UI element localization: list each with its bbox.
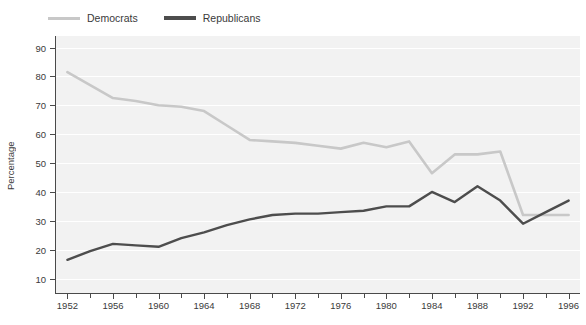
legend-item-republicans[interactable]: Republicans	[164, 12, 261, 24]
y-tick-mark	[50, 250, 55, 251]
legend-line-swatch-democrats	[48, 17, 80, 20]
x-tick-label: 1960	[148, 300, 169, 311]
y-tick-label: 20	[24, 244, 46, 255]
y-tick-label: 30	[24, 215, 46, 226]
y-tick-label: 10	[24, 273, 46, 284]
y-tick-mark	[50, 105, 55, 106]
legend-label-democrats: Democrats	[87, 12, 138, 24]
chart-legend: Democrats Republicans	[48, 9, 261, 27]
x-tick-label: 1964	[194, 300, 215, 311]
y-tick-mark	[50, 279, 55, 280]
y-tick-label: 70	[24, 100, 46, 111]
y-tick-label: 50	[24, 158, 46, 169]
y-tick-label: 90	[24, 42, 46, 53]
series-line-democrats	[67, 72, 568, 215]
y-tick-mark	[50, 134, 55, 135]
y-tick-mark	[50, 163, 55, 164]
legend-label-republicans: Republicans	[203, 12, 261, 24]
plot-area	[56, 36, 580, 293]
x-tick-label: 1980	[376, 300, 397, 311]
y-tick-mark	[50, 221, 55, 222]
y-tick-label: 60	[24, 129, 46, 140]
x-tick-label: 1972	[285, 300, 306, 311]
y-tick-label: 40	[24, 186, 46, 197]
x-tick-label: 1988	[467, 300, 488, 311]
y-axis-tick-labels: 102030405060708090	[22, 0, 46, 325]
x-axis-tick-labels: 1952195619601964196819721976198019841988…	[0, 296, 586, 318]
x-tick-label: 1996	[558, 300, 579, 311]
x-tick-label: 1952	[57, 300, 78, 311]
legend-line-swatch-republicans	[164, 16, 196, 20]
y-tick-label: 80	[24, 71, 46, 82]
x-tick-label: 1956	[102, 300, 123, 311]
y-tick-mark	[50, 48, 55, 49]
series-line-republicans	[67, 186, 568, 260]
y-tick-mark	[50, 192, 55, 193]
y-tick-mark	[50, 76, 55, 77]
y-axis-title: Percentage	[2, 120, 18, 212]
x-tick-label: 1968	[239, 300, 260, 311]
chart-container: Democrats Republicans Percentage 1020304…	[0, 0, 586, 325]
y-axis-line	[55, 36, 56, 294]
x-tick-label: 1984	[421, 300, 442, 311]
x-tick-label: 1976	[330, 300, 351, 311]
x-tick-label: 1992	[512, 300, 533, 311]
series-lines	[56, 36, 580, 293]
legend-item-democrats[interactable]: Democrats	[48, 12, 138, 24]
